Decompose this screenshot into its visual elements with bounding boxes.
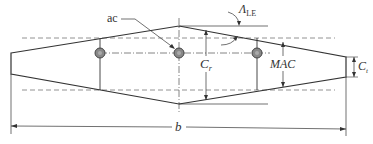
- arrow-left-icon: [11, 124, 17, 128]
- arrow-down-icon: [281, 82, 285, 87]
- tip-chord-label: Ct: [358, 59, 369, 75]
- mac-label: MAC: [269, 57, 296, 71]
- span-dimension-left: [11, 126, 172, 127]
- span-label: b: [175, 119, 182, 134]
- ac-label: ac: [107, 11, 118, 25]
- span-dimension-right: [186, 127, 346, 129]
- ac-marker-center: [174, 48, 184, 58]
- arrow-right-icon: [340, 127, 346, 131]
- arrow-icon: [237, 21, 241, 26]
- ac-marker-right: [252, 48, 262, 58]
- arrow-up-icon: [352, 57, 356, 62]
- wing-planform-diagram: Cr MAC Ct ac ΛLE b: [0, 0, 373, 144]
- sweep-leader: [228, 12, 239, 24]
- arrow-down-icon: [352, 72, 356, 77]
- ac-marker-left: [95, 48, 105, 58]
- sweep-label: ΛLE: [238, 2, 256, 18]
